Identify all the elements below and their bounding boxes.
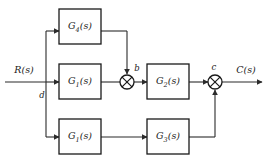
block-g1-label: G1(s) xyxy=(68,75,92,89)
block-diagram-canvas: G4(s) G1(s) G2(s) G1(s) G3(s) R(s) C(s) … xyxy=(0,0,269,167)
block-g3-label: G3(s) xyxy=(156,130,180,144)
node-label-b: b xyxy=(134,63,139,73)
diagram-vector-layer xyxy=(0,0,269,167)
block-g1-suffix: (s) xyxy=(80,75,92,86)
block-g1b-suffix: (s) xyxy=(80,130,92,141)
block-g1-name: G xyxy=(68,75,76,86)
block-g1b-name: G xyxy=(68,130,76,141)
block-g2-name: G xyxy=(156,75,164,86)
output-signal-label: C(s) xyxy=(236,64,256,75)
block-g1b-label: G1(s) xyxy=(68,130,92,144)
block-g4-suffix: (s) xyxy=(80,20,92,31)
block-g2-label: G2(s) xyxy=(156,75,180,89)
input-signal-label: R(s) xyxy=(14,64,33,75)
block-g4-name: G xyxy=(68,20,76,31)
node-label-d: d xyxy=(39,90,44,100)
block-g3-suffix: (s) xyxy=(168,130,180,141)
block-g4-label: G4(s) xyxy=(68,20,92,34)
block-g2-suffix: (s) xyxy=(168,75,180,86)
node-label-c: c xyxy=(212,62,217,72)
block-g3-name: G xyxy=(156,130,164,141)
